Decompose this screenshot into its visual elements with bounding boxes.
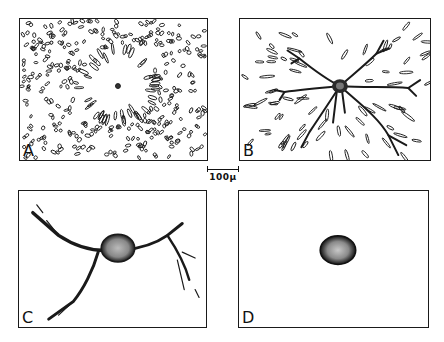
scale-bar-label: 100μ (206, 172, 240, 182)
panel-c: C (18, 190, 207, 328)
panel-d: D (238, 190, 429, 328)
panel-label-c: C (22, 310, 33, 326)
panel-b: B (239, 18, 431, 161)
panel-label-d: D (242, 310, 254, 326)
panel-label-a: A (23, 143, 34, 159)
fragment-field-drawing (20, 19, 207, 160)
panel-label-b: B (243, 143, 254, 159)
cell-with-processes-drawing (19, 191, 206, 327)
isolated-cell-body-drawing (239, 191, 428, 327)
scale-bar: 100μ (206, 166, 240, 184)
panel-a: A (19, 18, 208, 161)
branching-cell-drawing (240, 19, 430, 160)
